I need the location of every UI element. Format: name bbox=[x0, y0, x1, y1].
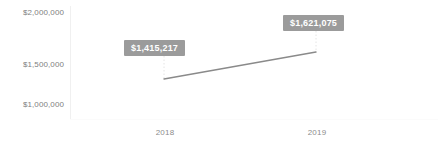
line-chart: $2,000,000 $1,500,000 $1,000,000 $1,415,… bbox=[0, 0, 442, 150]
data-label-badge-2018: $1,415,217 bbox=[124, 40, 185, 56]
plot-area bbox=[0, 0, 442, 150]
x-axis-tick-label: 2018 bbox=[125, 128, 205, 137]
data-label-badge-2019: $1,621,075 bbox=[283, 15, 344, 31]
data-series-line bbox=[164, 52, 316, 79]
x-axis-tick-label: 2019 bbox=[277, 128, 357, 137]
